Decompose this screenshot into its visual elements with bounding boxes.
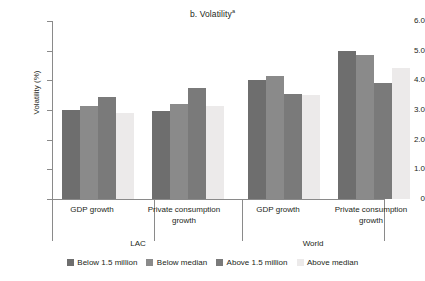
bar [374,83,392,199]
y-axis-tick-label: 5.0 [383,45,425,54]
bar [80,106,98,199]
chart-legend: Below 1.5 millionBelow medianAbove 1.5 m… [0,258,425,267]
legend-item-label: Below 1.5 million [77,258,137,267]
legend-swatch-icon [216,259,223,266]
legend-item-label: Above 1.5 million [227,258,288,267]
legend-item-label: Above median [307,258,358,267]
bar [266,76,284,199]
x-axis-category-label: GDP growth [228,205,328,216]
y-axis-tick-label: 6.0 [383,16,425,25]
plot-area [52,21,384,199]
bar [152,111,170,199]
bar [338,51,356,199]
legend-swatch-icon [67,259,74,266]
legend-item[interactable]: Below median [146,258,207,267]
x-axis-group-label: World [263,239,363,248]
x-axis-category-label: GDP growth [42,205,142,216]
chart-title-text: b. Volatility [190,9,232,19]
chart-figure: b. Volatilitya Volatility (%) 01.02.03.0… [0,0,425,281]
legend-item[interactable]: Above median [297,258,359,267]
bar [188,88,206,199]
x-axis-group-label: LAC [88,239,188,248]
legend-item-label: Below median [157,258,207,267]
chart-title: b. Volatilitya [0,9,425,19]
bar [302,95,320,199]
bar [284,94,302,199]
x-axis-category-label: Private consumptiongrowth [134,205,234,226]
bar [98,97,116,199]
bar [248,80,266,199]
bar [206,106,224,199]
legend-item[interactable]: Above 1.5 million [216,258,287,267]
bar [356,55,374,199]
bar [170,104,188,199]
chart-title-footnote-marker: a [232,8,235,14]
x-axis-category-label: Private consumptiongrowth [321,205,421,226]
bar [116,113,134,199]
legend-swatch-icon [146,259,153,266]
x-axis-line [52,199,385,200]
bar [62,110,80,199]
legend-swatch-icon [297,259,304,266]
bar [392,68,410,199]
legend-item[interactable]: Below 1.5 million [67,258,138,267]
y-axis-title: Volatility (%) [32,33,41,153]
